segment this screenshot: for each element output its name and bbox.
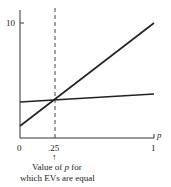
flat-series-line	[20, 94, 154, 102]
annotation-arrow: ↑	[52, 152, 57, 162]
x-tick-label-0: 0	[17, 143, 22, 153]
x-axis-variable-label: p	[157, 130, 162, 140]
y-tick-label-10: 10	[6, 18, 15, 28]
chart-canvas	[0, 0, 171, 187]
annotation-text-suffix: for	[69, 162, 82, 172]
x-tick-label-1: 1	[151, 143, 156, 153]
steep-series-line	[20, 23, 154, 126]
annotation-line-1: Value of p for	[32, 162, 82, 172]
annotation-text: Value of	[32, 162, 65, 172]
annotation-line-2: which EVs are equal	[20, 173, 95, 183]
